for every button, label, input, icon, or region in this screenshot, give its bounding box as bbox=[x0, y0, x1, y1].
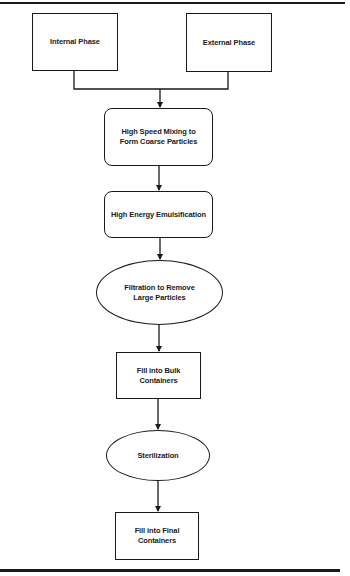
node-label: Internal Phase bbox=[50, 37, 100, 47]
node-label: Fill into Final Containers bbox=[135, 526, 180, 546]
node-sterilization: Sterilization bbox=[106, 430, 210, 481]
node-fill-bulk-containers: Fill into Bulk Containers bbox=[116, 352, 201, 399]
bottom-border-rule bbox=[0, 569, 340, 572]
connector-internal-merge bbox=[74, 71, 228, 89]
node-external-phase: External Phase bbox=[186, 13, 272, 72]
node-label: High Speed Mixing to Form Coarse Particl… bbox=[120, 127, 198, 147]
node-label: External Phase bbox=[203, 38, 255, 48]
node-internal-phase: Internal Phase bbox=[32, 13, 118, 71]
node-label: Filtration to Remove Large Particles bbox=[124, 283, 195, 303]
node-fill-final-containers: Fill into Final Containers bbox=[115, 512, 199, 560]
node-label: Fill into Bulk Containers bbox=[137, 366, 181, 386]
node-high-energy-emulsification: High Energy Emulsification bbox=[104, 191, 213, 238]
node-label: Sterilization bbox=[137, 451, 178, 461]
node-filtration: Filtration to Remove Large Particles bbox=[96, 260, 223, 325]
node-high-speed-mixing: High Speed Mixing to Form Coarse Particl… bbox=[104, 108, 213, 166]
node-label: High Energy Emulsification bbox=[111, 210, 206, 220]
